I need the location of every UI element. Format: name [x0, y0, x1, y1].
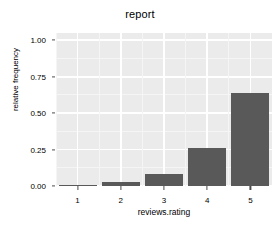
y-axis-tick-mark [52, 113, 56, 114]
x-axis-tick-mark [77, 186, 78, 190]
x-axis-tick-label: 2 [109, 196, 133, 205]
x-axis-tick-label: 3 [152, 196, 176, 205]
x-axis-tick-mark [250, 186, 251, 190]
x-axis-title: reviews.rating [56, 207, 272, 217]
bar [145, 174, 183, 186]
y-axis-tick-label: 0.75 [12, 72, 46, 81]
y-axis-tick-mark [52, 76, 56, 77]
y-axis-tick-label: 0.00 [12, 182, 46, 191]
x-axis-tick-mark [120, 186, 121, 190]
chart-figure: report relative frequency 0.000.250.500.… [0, 0, 280, 229]
x-axis-tick-label: 5 [238, 196, 262, 205]
gridline-minor-vertical [185, 33, 186, 186]
x-axis-tick-mark [163, 186, 164, 190]
y-axis-tick-labels: 0.000.250.500.751.00 [12, 33, 46, 186]
gridline-minor-vertical [228, 33, 229, 186]
gridline-major-vertical [120, 33, 122, 186]
chart-title: report [0, 8, 280, 20]
gridline-minor-vertical [99, 33, 100, 186]
bar [188, 148, 226, 186]
gridline-minor-vertical [142, 33, 143, 186]
x-axis-tick-mark [207, 186, 208, 190]
y-axis-tick-mark [52, 185, 56, 186]
y-axis-tick-mark [52, 149, 56, 150]
y-axis-tick-mark [52, 40, 56, 41]
gridline-major-vertical [163, 33, 165, 186]
y-axis-tick-label: 0.25 [12, 145, 46, 154]
x-axis-tick-labels: 12345 [56, 186, 272, 208]
x-axis-tick-label: 1 [66, 196, 90, 205]
y-axis-tick-label: 0.50 [12, 109, 46, 118]
plot-panel [56, 33, 272, 186]
y-axis-tick-marks [52, 33, 57, 186]
gridline-major-vertical [77, 33, 79, 186]
y-axis-tick-label: 1.00 [12, 36, 46, 45]
bar [231, 93, 269, 186]
x-axis-tick-label: 4 [195, 196, 219, 205]
